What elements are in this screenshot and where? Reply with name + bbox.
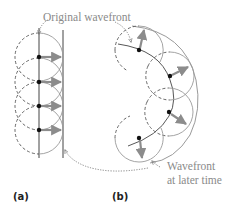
panel-a-label: (a) bbox=[13, 191, 29, 202]
huygens-principle-diagram: Original wavefront Wavefront at later ti… bbox=[0, 0, 229, 203]
panel-a-plane-wave bbox=[15, 28, 63, 158]
wavelets-b bbox=[115, 26, 194, 162]
later-wavefront-label-line1: Wavefront bbox=[167, 160, 216, 172]
original-wavefront-label: Original wavefront bbox=[43, 11, 132, 24]
panel-b-label: (b) bbox=[112, 191, 128, 202]
later-wavefront-label-line2: at later time bbox=[167, 174, 222, 186]
original-wavefront-arc bbox=[118, 44, 174, 146]
later-wavefront-arc bbox=[132, 26, 198, 163]
panel-b-spherical-wave bbox=[115, 26, 198, 163]
